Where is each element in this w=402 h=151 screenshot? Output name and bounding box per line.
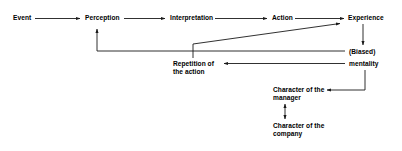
node-event: Event [13, 14, 31, 22]
node-experience: Experience [348, 14, 384, 22]
node-mentality: mentality [349, 60, 378, 68]
node-company-line1: Character of the [273, 122, 324, 130]
arrow-mentality-to-manager [327, 70, 365, 90]
node-interpretation: Interpretation [170, 14, 213, 22]
node-company-line2: company [273, 130, 302, 138]
node-perception: Perception [85, 14, 120, 22]
node-manager-line2: manager [273, 94, 301, 102]
diagram-canvas: Event Perception Interpretation Action E… [0, 0, 402, 151]
node-repetition-line1: Repetition of [173, 60, 214, 68]
node-biased: (Biased) [349, 48, 375, 56]
node-manager-line1: Character of the [273, 86, 324, 94]
node-repetition-line2: the action [173, 68, 205, 76]
arrow-repetition-to-experience [193, 24, 340, 59]
node-action: Action [272, 14, 293, 22]
